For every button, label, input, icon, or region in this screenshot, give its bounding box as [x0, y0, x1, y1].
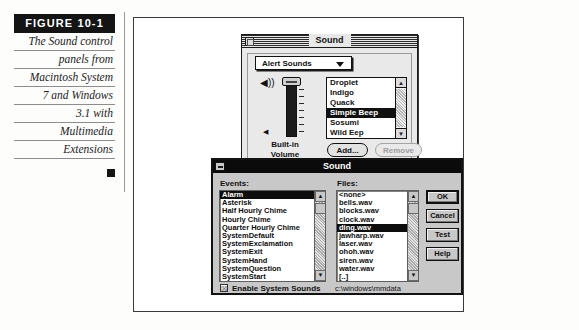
windows-dialog-body: Events: Files: Alarm Asterisk Half Hourl…	[213, 173, 461, 293]
figure-number-label: FIGURE 10-1	[14, 14, 115, 33]
ok-button[interactable]: OK	[426, 190, 459, 204]
built-in-volume-label: Built-in Volume	[254, 140, 316, 160]
list-item[interactable]: Wild Eep	[327, 128, 395, 138]
list-item[interactable]: SystemStart	[220, 273, 314, 281]
volume-slider-track[interactable]	[286, 81, 297, 137]
slider-tick	[299, 89, 304, 90]
list-item[interactable]: Droplet	[327, 78, 395, 88]
list-item[interactable]: Sosumi	[327, 118, 395, 128]
cancel-button[interactable]: Cancel	[426, 209, 459, 223]
enable-system-sounds-checkbox[interactable]: ☒	[220, 284, 228, 292]
mac-sound-control-panel[interactable]: Sound Alert Sounds ◀)) ◀	[241, 34, 418, 165]
windows-sound-dialog[interactable]: Sound Events: Files: Alarm Asterisk Half…	[211, 158, 463, 295]
alert-sounds-popup-menu[interactable]: Alert Sounds	[255, 56, 352, 70]
mac-window-body: Alert Sounds ◀)) ◀	[242, 48, 417, 165]
chevron-down-icon	[336, 62, 344, 67]
enable-system-sounds-label: Enable System Sounds	[232, 284, 320, 293]
popup-selected-label: Alert Sounds	[262, 58, 312, 70]
help-button[interactable]: Help	[426, 247, 459, 261]
speaker-quiet-icon: ◀	[263, 128, 268, 135]
sound-files-path: c:\windows\mmdata	[335, 284, 401, 293]
scrollbar[interactable]: ▲ ▼	[395, 78, 406, 138]
events-list-items[interactable]: Alarm Asterisk Half Hourly Chime Hourly …	[220, 191, 314, 281]
caption-end-marker	[14, 159, 115, 181]
scroll-up-arrow-icon[interactable]: ▲	[408, 191, 419, 202]
slider-tick	[299, 96, 304, 97]
mac-window-title: Sound	[309, 34, 351, 47]
column-divider	[124, 12, 125, 192]
figure-caption-column: FIGURE 10-1 The Sound control panels fro…	[14, 14, 115, 181]
volume-slider-group[interactable]: ◀)) ◀	[260, 76, 318, 140]
alert-sounds-list[interactable]: Droplet Indigo Quack Simple Beep Sosumi …	[326, 77, 407, 139]
events-label: Events:	[220, 179, 249, 188]
events-listbox[interactable]: Alarm Asterisk Half Hourly Chime Hourly …	[219, 190, 326, 282]
files-list-items[interactable]: <none> bells.wav blocks.wav clock.wav di…	[337, 191, 407, 281]
scrollbar[interactable]: ▲ ▼	[314, 191, 325, 281]
slider-tick	[299, 103, 304, 104]
scrollbar-track[interactable]	[396, 89, 406, 127]
remove-sound-button: Remove	[375, 143, 422, 157]
volume-slider-thumb[interactable]	[282, 77, 301, 86]
figure-frame: Sound Alert Sounds ◀)) ◀	[133, 17, 464, 312]
caption-line: 3.1 with	[14, 105, 115, 123]
add-sound-button[interactable]: Add...	[327, 143, 368, 157]
list-item-selected[interactable]: Simple Beep	[327, 108, 395, 118]
caption-line: Multimedia	[14, 123, 115, 141]
alert-sounds-list-items[interactable]: Droplet Indigo Quack Simple Beep Sosumi …	[327, 78, 395, 138]
minimize-box-icon[interactable]	[215, 162, 225, 171]
caption-line: Extensions	[14, 141, 115, 159]
slider-tick	[299, 131, 304, 132]
scroll-down-arrow-icon[interactable]: ▼	[396, 128, 406, 138]
slider-tick	[299, 110, 304, 111]
caption-line: panels from	[14, 51, 115, 69]
list-item[interactable]: Indigo	[327, 88, 395, 98]
list-item[interactable]: Quack	[327, 98, 395, 108]
mac-title-bar[interactable]: Sound	[242, 35, 417, 48]
scrollbar-thumb[interactable]	[408, 203, 419, 214]
figure-page: FIGURE 10-1 The Sound control panels fro…	[0, 0, 579, 330]
close-box-icon[interactable]	[245, 37, 254, 46]
files-label: Files:	[337, 179, 358, 188]
caption-line: Macintosh System	[14, 69, 115, 87]
files-listbox[interactable]: <none> bells.wav blocks.wav clock.wav di…	[336, 190, 419, 282]
scrollbar-thumb[interactable]	[315, 203, 326, 214]
end-square-icon	[107, 169, 115, 177]
scroll-up-arrow-icon[interactable]: ▲	[396, 78, 406, 88]
scroll-down-arrow-icon[interactable]: ▼	[315, 270, 326, 281]
scrollbar[interactable]: ▲ ▼	[407, 191, 418, 281]
caption-line: 7 and Windows	[14, 87, 115, 105]
caption-line: The Sound control	[14, 33, 115, 51]
slider-tick	[299, 117, 304, 118]
windows-dialog-title: Sound	[213, 160, 461, 173]
speaker-loud-icon: ◀))	[260, 78, 275, 88]
test-button[interactable]: Test	[426, 228, 459, 242]
volume-label-line1: Built-in	[254, 140, 316, 150]
list-item[interactable]: [..]	[337, 273, 407, 281]
scroll-down-arrow-icon[interactable]: ▼	[408, 270, 419, 281]
slider-tick	[299, 124, 304, 125]
windows-title-bar[interactable]: Sound	[213, 160, 461, 173]
scroll-up-arrow-icon[interactable]: ▲	[315, 191, 326, 202]
